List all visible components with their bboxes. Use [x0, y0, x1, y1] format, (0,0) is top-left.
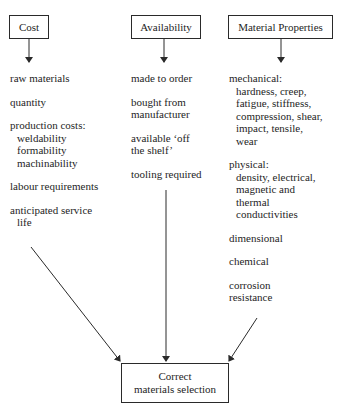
cost-item: anticipated service life [10, 204, 128, 229]
properties-item: mechanical: hardness, creep, fatigue, st… [229, 72, 343, 147]
result-box: Correct materials selection [121, 363, 229, 403]
properties-item: chemical [229, 255, 343, 268]
availability-item: available ‘off the shelf’ [131, 132, 226, 157]
availability-item: tooling required [131, 168, 226, 181]
material-properties-label: Material Properties [238, 21, 323, 34]
cost-item: labour requirements [10, 180, 128, 193]
cost-item: quantity [10, 96, 128, 109]
material-properties-box: Material Properties [228, 15, 333, 39]
availability-item: bought from manufacturer [131, 96, 226, 121]
arrow-cost-to-result [31, 247, 120, 361]
properties-item: physical: density, electrical, magnetic … [229, 158, 343, 221]
cost-column: raw materials quantity production costs:… [10, 72, 128, 240]
cost-box: Cost [9, 15, 49, 39]
arrow-properties-to-result [229, 318, 257, 361]
availability-label: Availability [140, 21, 192, 34]
result-line-1: Correct [159, 370, 192, 383]
properties-item: corrosion resistance [229, 279, 343, 304]
availability-column: made to order bought from manufacturer a… [131, 72, 226, 191]
availability-box: Availability [131, 15, 201, 39]
properties-column: mechanical: hardness, creep, fatigue, st… [229, 72, 343, 315]
cost-item: raw materials [10, 72, 128, 85]
result-line-2: materials selection [134, 383, 216, 396]
availability-item: made to order [131, 72, 226, 85]
cost-item: production costs: weldability formabilit… [10, 119, 128, 169]
properties-item: dimensional [229, 232, 343, 245]
cost-label: Cost [19, 21, 39, 34]
